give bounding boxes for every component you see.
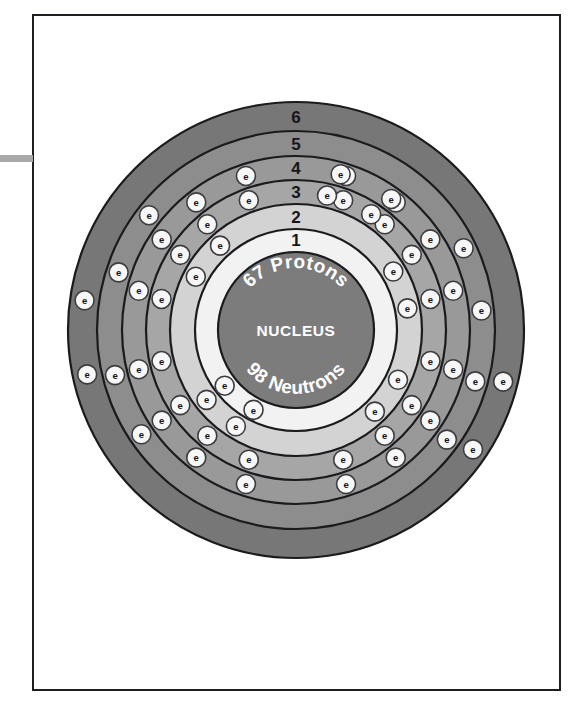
left-edge-tab [0, 155, 33, 162]
page-frame [32, 14, 561, 691]
